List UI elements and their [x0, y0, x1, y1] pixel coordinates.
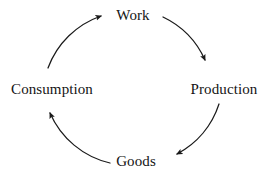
- circular-flow-diagram: Work Production Goods Consumption: [0, 0, 267, 178]
- arrow-consumption-to-work: [48, 16, 101, 68]
- arrow-work-to-production: [163, 17, 205, 60]
- node-label-production: Production: [188, 81, 261, 98]
- arrow-goods-to-consumption: [50, 113, 110, 163]
- node-label-work: Work: [113, 7, 152, 24]
- node-label-consumption: Consumption: [8, 81, 96, 98]
- node-label-goods: Goods: [113, 153, 159, 170]
- arrow-production-to-goods: [177, 104, 219, 154]
